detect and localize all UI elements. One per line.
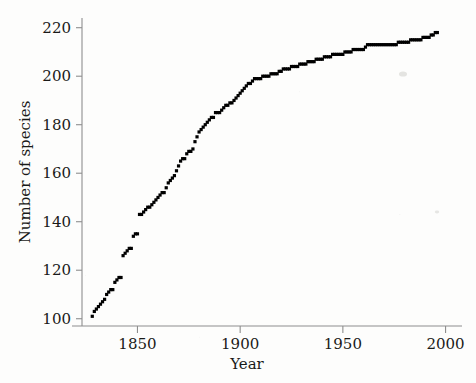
scan-blemish [399, 71, 407, 76]
y-axis-label: Number of species [16, 101, 34, 244]
data-point [163, 191, 166, 194]
data-point [165, 186, 168, 189]
data-point [183, 157, 186, 160]
species-accumulation-chart: 100120140160180200220 1850190019502000 Y… [0, 0, 476, 383]
y-tick-label: 160 [42, 164, 71, 182]
y-tick-label: 100 [42, 310, 71, 328]
y-tick-label: 200 [42, 67, 71, 85]
data-point [130, 247, 133, 250]
x-tick-label: 1850 [118, 335, 156, 353]
y-axis-ticks: 100120140160180200220 [42, 19, 82, 328]
data-point-group [91, 31, 439, 318]
y-tick-label: 140 [42, 213, 71, 231]
data-point [191, 147, 194, 150]
data-point [175, 169, 178, 172]
data-point [111, 288, 114, 291]
x-tick-label: 1900 [221, 335, 259, 353]
chart-figure: 100120140160180200220 1850190019502000 Y… [0, 0, 476, 383]
x-tick-label: 2000 [426, 335, 464, 353]
y-tick-label: 120 [42, 261, 71, 279]
x-axis-label: Year [229, 355, 264, 373]
data-point [136, 232, 139, 235]
x-axis-ticks: 1850190019502000 [118, 326, 464, 353]
data-point [91, 315, 94, 318]
scan-blemish [435, 211, 439, 214]
y-tick-label: 180 [42, 116, 71, 134]
data-point [195, 135, 198, 138]
data-point [212, 116, 215, 119]
data-point [119, 276, 122, 279]
data-point [177, 164, 180, 167]
data-point [173, 174, 176, 177]
data-point [436, 31, 439, 34]
x-tick-label: 1950 [324, 335, 362, 353]
y-tick-label: 220 [42, 19, 71, 37]
data-point [193, 140, 196, 143]
data-point [103, 298, 106, 301]
